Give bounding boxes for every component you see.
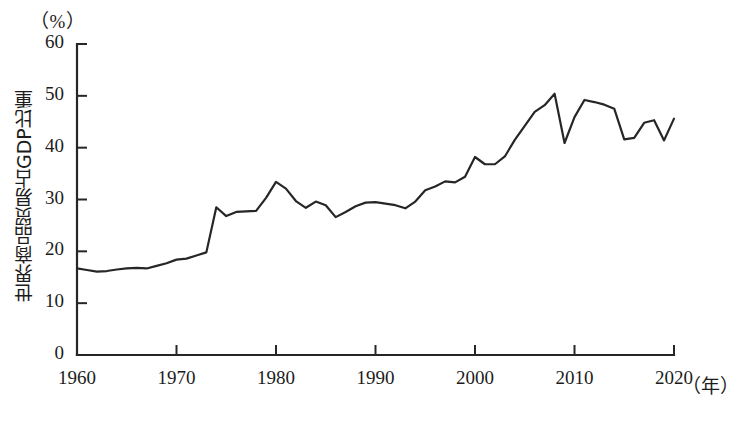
y-tick-label: 40 xyxy=(22,135,64,157)
y-tick-label: 60 xyxy=(22,31,64,53)
y-tick-label: 0 xyxy=(22,342,64,364)
x-tick-label: 1990 xyxy=(350,367,402,389)
y-tick-marks xyxy=(77,44,86,303)
x-tick-label: 2000 xyxy=(449,367,501,389)
y-tick-label: 20 xyxy=(22,238,64,260)
y-tick-label: 30 xyxy=(22,187,64,209)
x-tick-label: 1970 xyxy=(151,367,203,389)
data-line-series xyxy=(77,94,674,272)
plot-area xyxy=(0,0,748,425)
x-axis-unit-label: （年） xyxy=(682,371,739,398)
chart-figure: （%） 世界商品贸易占GDP比重 0102030405060 196019701… xyxy=(0,0,748,425)
x-tick-label: 1960 xyxy=(51,367,103,389)
axes-group xyxy=(77,44,674,355)
x-tick-label: 2010 xyxy=(549,367,601,389)
x-tick-marks xyxy=(177,346,675,355)
y-tick-label: 50 xyxy=(22,83,64,105)
x-tick-label: 1980 xyxy=(250,367,302,389)
y-tick-label: 10 xyxy=(22,290,64,312)
